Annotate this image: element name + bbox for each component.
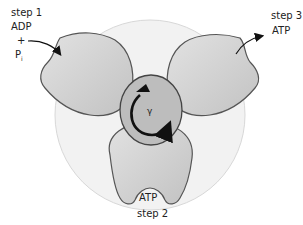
- step1-label: step 1: [11, 6, 42, 19]
- gamma-label: γ: [147, 105, 152, 118]
- i-subscript: i: [21, 55, 23, 62]
- atp-output-label: ATP: [272, 24, 290, 37]
- step2-label: step 2: [137, 207, 168, 220]
- plus-label: +: [17, 34, 25, 47]
- pi-label: Pi: [15, 48, 23, 65]
- adp-label: ADP: [11, 20, 32, 33]
- atp-bound-label: ATP: [139, 191, 157, 204]
- step3-label: step 3: [271, 9, 302, 22]
- subunit-step1: [41, 33, 133, 116]
